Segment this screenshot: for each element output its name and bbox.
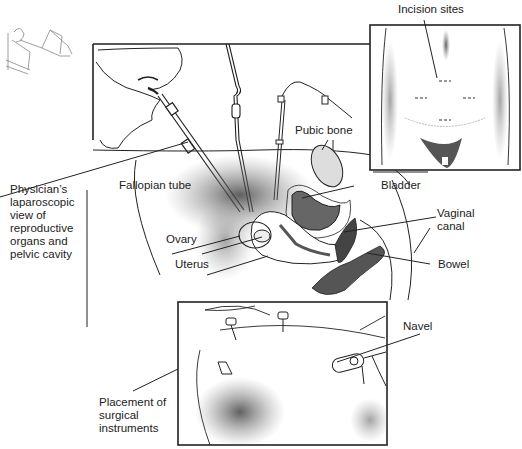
label-physician-view: Physician’s laparoscopic view of reprodu… — [10, 183, 75, 261]
label-pubic-bone: Pubic bone — [295, 124, 353, 137]
label-uterus: Uterus — [175, 258, 209, 271]
patient-position-thumbnail — [6, 28, 72, 74]
physician-face — [96, 48, 182, 148]
label-bladder: Bladder — [381, 179, 421, 192]
label-bowel: Bowel — [438, 258, 469, 271]
label-fallopian-tube: Fallopian tube — [119, 179, 191, 192]
ovary — [254, 230, 270, 242]
label-navel: Navel — [403, 320, 432, 333]
label-ovary: Ovary — [166, 233, 197, 246]
label-placement: Placement of surgical instruments — [99, 396, 166, 435]
label-incision-sites: Incision sites — [398, 3, 464, 16]
label-vaginal-canal: Vaginal canal — [437, 207, 475, 233]
bladder — [292, 191, 340, 230]
